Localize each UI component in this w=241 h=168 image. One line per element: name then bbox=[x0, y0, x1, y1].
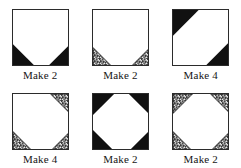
block-label: Make 2 bbox=[103, 69, 138, 82]
block-label: Make 2 bbox=[184, 153, 219, 166]
corner-triangle-bottom-right bbox=[47, 44, 69, 66]
quilt-block-5 bbox=[92, 93, 149, 150]
block-diagram-grid: Make 2Make 2Make 4Make 4Make 2Make 2 bbox=[0, 0, 241, 167]
corner-triangle-top-left bbox=[93, 94, 114, 115]
corner-triangle-bottom-right bbox=[211, 131, 229, 149]
corner-triangle-bottom-right bbox=[50, 131, 68, 149]
quilt-block-2 bbox=[92, 9, 149, 66]
block-label: Make 2 bbox=[23, 69, 58, 82]
block-label: Make 4 bbox=[184, 69, 219, 82]
quilt-block-6 bbox=[172, 93, 229, 150]
quilt-block-4 bbox=[12, 93, 69, 150]
block-cell: Make 2 bbox=[80, 0, 160, 84]
corner-triangle-bottom-right bbox=[205, 41, 230, 66]
corner-triangle-bottom-left bbox=[93, 129, 114, 149]
block-cell: Make 2 bbox=[0, 0, 80, 84]
quilt-block-3 bbox=[172, 9, 229, 66]
block-cell: Make 4 bbox=[161, 0, 241, 84]
block-cell: Make 2 bbox=[80, 84, 160, 168]
corner-triangle-bottom-left bbox=[13, 44, 36, 66]
corner-triangle-top-right bbox=[129, 94, 149, 115]
block-label: Make 2 bbox=[103, 153, 138, 166]
block-cell: Make 4 bbox=[0, 84, 80, 168]
block-label: Make 4 bbox=[23, 153, 58, 166]
quilt-block-1 bbox=[12, 9, 69, 66]
corner-triangle-bottom-right bbox=[129, 129, 149, 149]
corner-triangle-top-left bbox=[173, 10, 199, 36]
block-cell: Make 2 bbox=[161, 84, 241, 168]
corner-triangle-bottom-right bbox=[131, 48, 149, 66]
